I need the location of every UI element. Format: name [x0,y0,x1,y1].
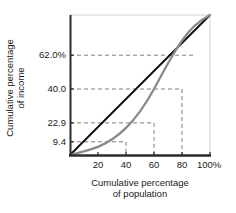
x-tick-label-100: 100% [197,159,229,170]
y-tick-label-22-9: 22.9 [22,117,66,128]
y-axis-title: Cumulative percentage of income [4,26,26,150]
y-axis-title-line1: Cumulative percentage [4,26,15,150]
x-tick-label-40: 40 [113,159,139,170]
y-axis-title-line2: of income [15,26,26,150]
x-tick-label-20: 20 [85,159,111,170]
x-tick-label-80: 80 [169,159,195,170]
y-tick-label-40: 40.0 [22,83,66,94]
lorenz-curve-chart: 62.0% 40.0 22.9 9.4 20 40 60 80 100% Cum… [0,0,236,213]
x-axis-title-line2: of population [56,188,224,199]
y-tick-label-62: 62.0% [22,49,66,60]
x-axis-title: Cumulative percentage of population [56,177,224,199]
y-tick-label-9-4: 9.4 [22,136,66,147]
x-tick-label-60: 60 [141,159,167,170]
x-axis-title-line1: Cumulative percentage [56,177,224,188]
